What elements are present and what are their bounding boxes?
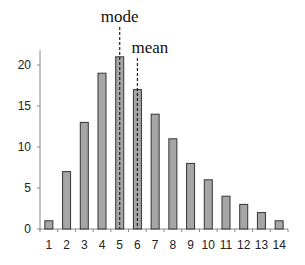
x-tick-label: 2 — [63, 238, 70, 252]
y-tick-label: 5 — [24, 181, 31, 195]
x-tick-label: 4 — [99, 238, 106, 252]
bar — [45, 221, 53, 229]
bar — [151, 114, 159, 229]
x-tick-label: 8 — [170, 238, 177, 252]
bar — [169, 139, 177, 229]
bar — [275, 221, 283, 229]
x-axis: 1234567891011121314 — [40, 229, 288, 252]
bar — [98, 73, 106, 229]
y-tick-label: 10 — [18, 140, 32, 154]
x-tick-label: 6 — [134, 238, 141, 252]
bar — [257, 213, 265, 229]
mode-label: mode — [101, 7, 139, 26]
x-tick-label: 7 — [152, 238, 159, 252]
y-tick-label: 15 — [18, 99, 32, 113]
bar — [80, 122, 88, 229]
bar — [222, 196, 230, 229]
x-tick-label: 3 — [81, 238, 88, 252]
mean-label: mean — [131, 38, 168, 57]
y-tick-label: 20 — [18, 58, 32, 72]
x-tick-label: 5 — [116, 238, 123, 252]
x-tick-label: 13 — [255, 238, 269, 252]
x-tick-label: 12 — [237, 238, 251, 252]
bars — [45, 57, 283, 229]
x-tick-label: 11 — [220, 238, 233, 252]
bar-chart: 05101520 1234567891011121314 modemean — [0, 0, 305, 265]
y-tick-label: 0 — [24, 222, 31, 236]
x-tick-label: 10 — [202, 238, 216, 252]
x-tick-label: 1 — [46, 238, 53, 252]
bar — [63, 172, 71, 229]
bar — [240, 204, 248, 229]
bar — [187, 163, 195, 229]
y-axis: 05101520 — [18, 50, 40, 236]
x-tick-label: 9 — [187, 238, 194, 252]
x-tick-label: 14 — [272, 238, 286, 252]
bar — [204, 180, 212, 229]
